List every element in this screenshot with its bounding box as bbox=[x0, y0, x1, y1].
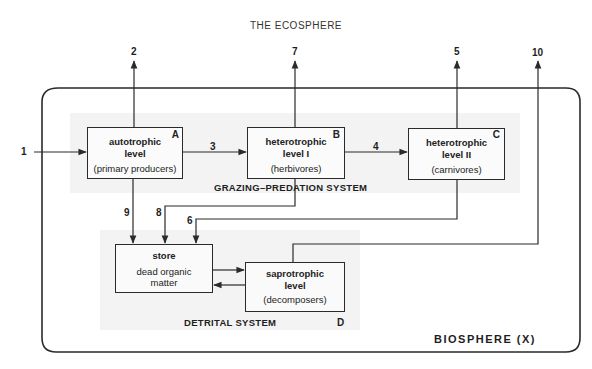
node-saprotrophic-level: saprotrophic level (decomposers) bbox=[245, 262, 345, 312]
node-letter: B bbox=[333, 129, 340, 141]
node-subtitle-2: matter bbox=[116, 278, 212, 288]
flow-7-label: 7 bbox=[292, 47, 298, 57]
node-d-letter: D bbox=[337, 318, 344, 328]
grazing-predation-system-label: GRAZING–PREDATION SYSTEM bbox=[214, 182, 367, 193]
node-subtitle: (decomposers) bbox=[246, 294, 344, 306]
detrital-system-label: DETRITAL SYSTEM bbox=[184, 317, 276, 328]
node-title-2: level II bbox=[409, 149, 504, 161]
node-autotrophic-level: A autotrophic level (primary producers) bbox=[87, 127, 183, 179]
node-heterotrophic-level-1: B heterotrophic level I (herbivores) bbox=[247, 127, 345, 179]
node-title: store bbox=[116, 250, 212, 262]
node-title-2: level bbox=[88, 148, 182, 160]
node-store-dead-organic-matter: store dead organic matter bbox=[115, 244, 213, 293]
flow-4-label: 4 bbox=[373, 142, 379, 152]
node-title: heterotrophic bbox=[409, 137, 504, 149]
node-title: heterotrophic bbox=[248, 136, 344, 148]
node-title-2: level I bbox=[248, 148, 344, 160]
node-title: saprotrophic bbox=[246, 268, 344, 280]
node-title: autotrophic bbox=[88, 136, 182, 148]
flow-10-label: 10 bbox=[532, 48, 543, 58]
node-subtitle: (herbivores) bbox=[248, 163, 344, 175]
flow-5-label: 5 bbox=[454, 47, 460, 57]
flow-6-label: 6 bbox=[187, 216, 193, 226]
node-subtitle: (carnivores) bbox=[409, 164, 504, 176]
flow-1-label: 1 bbox=[21, 147, 27, 157]
node-heterotrophic-level-2: C heterotrophic level II (carnivores) bbox=[408, 128, 505, 180]
node-letter: A bbox=[172, 129, 179, 141]
node-title-2: level bbox=[246, 280, 344, 292]
node-subtitle: (primary producers) bbox=[88, 163, 182, 175]
biosphere-label: BIOSPHERE (X) bbox=[434, 333, 536, 345]
flow-2-label: 2 bbox=[131, 47, 137, 57]
flow-8-label: 8 bbox=[156, 208, 162, 218]
node-letter: C bbox=[493, 129, 500, 141]
flow-3-label: 3 bbox=[210, 142, 216, 152]
flow-9-label: 9 bbox=[124, 208, 130, 218]
